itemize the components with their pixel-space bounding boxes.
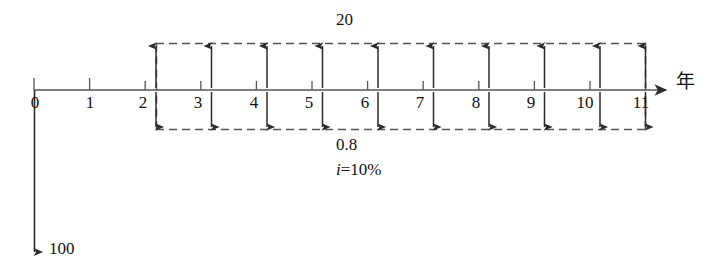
tick-label-11: 11 (628, 94, 654, 111)
tick-label-2: 2 (135, 94, 151, 111)
tick-label-10: 10 (572, 94, 598, 111)
annuity-dashed-box (156, 44, 646, 130)
initial-outflow-label: 100 (49, 240, 75, 257)
interest-rate-label: i=10% (336, 161, 381, 178)
tick-label-4: 4 (246, 94, 262, 111)
axis-unit-label: 年 (676, 72, 695, 91)
tick-label-3: 3 (190, 94, 206, 111)
tick-label-9: 9 (523, 94, 539, 111)
cash-flow-diagram: 0 1 2 3 4 5 6 7 8 9 10 11 年 20 0.8 i=10%… (0, 0, 718, 274)
tick-label-5: 5 (301, 94, 317, 111)
annuity-upper-label: 20 (336, 11, 353, 28)
annuity-lower-label: 0.8 (336, 136, 357, 153)
diagram-canvas (0, 0, 718, 274)
tick-label-0: 0 (27, 94, 43, 111)
axis-tick-marks (34, 78, 646, 90)
tick-label-1: 1 (82, 94, 98, 111)
interest-rate-value: =10% (341, 160, 382, 179)
tick-label-8: 8 (468, 94, 484, 111)
annuity-arrows (156, 46, 646, 127)
tick-label-6: 6 (357, 94, 373, 111)
tick-label-7: 7 (412, 94, 428, 111)
